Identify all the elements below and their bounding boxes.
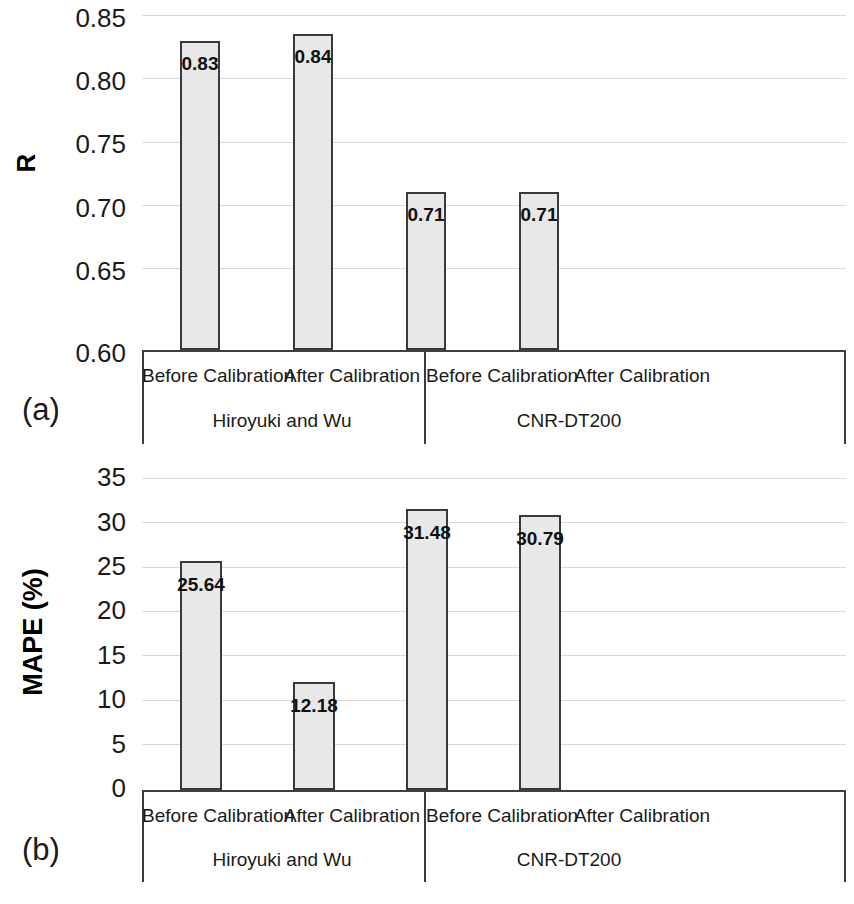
category-label-a-1: After Calibration [282,366,422,385]
gridline-b-4 [142,655,846,656]
category-label-a-0: Before Calibration [142,366,282,385]
category-label-a-3: After Calibration [568,366,716,385]
y-axis-title-b: MAPE (%) [18,552,50,712]
y-tick-a-5: 0.60 [58,340,126,366]
gridline-b-3 [142,611,846,612]
gridline-a-2 [142,142,846,143]
bar-b-2[interactable] [406,509,448,790]
bar-value-a-0: 0.83 [175,54,225,73]
gridline-a-0 [142,15,846,16]
group-label-a-1: CNR-DT200 [424,411,714,430]
y-tick-b-0: 35 [64,464,126,490]
y-tick-b-6: 5 [64,731,126,757]
y-tick-b-5: 10 [64,686,126,712]
category-label-b-1: After Calibration [282,806,422,825]
plot-area-b: 25.64 12.18 31.48 30.79 [142,452,846,792]
bar-value-a-3: 0.71 [514,205,564,224]
gridline-b-5 [142,700,846,701]
panel-letter-b: (b) [22,832,60,868]
group-label-b-1: CNR-DT200 [424,850,714,869]
category-label-a-2: Before Calibration [426,366,566,385]
gridline-a-4 [142,268,846,269]
y-tick-a-4: 0.65 [58,258,126,284]
bar-value-b-1: 12.18 [283,696,345,715]
bar-value-b-2: 31.48 [396,523,458,542]
gridline-b-1 [142,522,846,523]
plot-area-a: 0.83 0.84 0.71 0.71 [142,0,846,352]
category-label-b-3: After Calibration [568,806,716,825]
bar-b-3[interactable] [519,515,561,790]
y-axis-title-a: R [11,139,41,187]
bar-a-1[interactable] [293,34,333,350]
category-label-b-2: Before Calibration [426,806,566,825]
bar-a-0[interactable] [180,41,220,350]
chart-panel-b: (b) MAPE (%) 35 30 25 20 15 10 5 0 25.64… [0,452,854,904]
bar-value-b-0: 25.64 [170,575,232,594]
gridline-b-6 [142,744,846,745]
bar-value-a-2: 0.71 [401,205,451,224]
gridline-b-0 [142,478,846,479]
y-tick-b-4: 15 [64,642,126,668]
y-tick-b-7: 0 [64,775,126,801]
y-tick-b-1: 30 [64,509,126,535]
bar-value-b-3: 30.79 [509,529,571,548]
y-tick-a-2: 0.75 [58,131,126,157]
group-label-a-0: Hiroyuki and Wu [142,411,422,430]
gridline-b-2 [142,567,846,568]
y-tick-a-1: 0.80 [58,68,126,94]
y-tick-a-3: 0.70 [58,195,126,221]
y-tick-a-0: 0.85 [58,5,126,31]
category-label-b-0: Before Calibration [142,806,282,825]
y-tick-b-2: 25 [64,553,126,579]
chart-panel-a: (a) R 0.85 0.80 0.75 0.70 0.65 0.60 0.83… [0,0,854,452]
y-tick-b-3: 20 [64,597,126,623]
panel-letter-a: (a) [22,392,60,428]
gridline-a-3 [142,205,846,206]
group-label-b-0: Hiroyuki and Wu [142,850,422,869]
bar-b-0[interactable] [180,561,222,790]
gridline-a-1 [142,78,846,79]
bar-value-a-1: 0.84 [288,47,338,66]
